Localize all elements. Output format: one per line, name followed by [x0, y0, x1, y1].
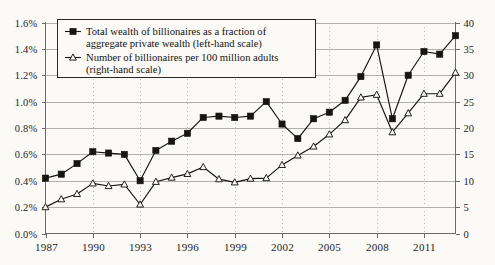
left-axis-tick-label: 0.2% — [15, 202, 38, 213]
right-axis-tick-label: 5 — [464, 202, 469, 213]
data-point-marker — [452, 33, 458, 39]
x-axis-tick-label: 2011 — [413, 241, 436, 253]
data-point-marker — [137, 178, 143, 184]
x-axis-tick-label: 1996 — [176, 241, 199, 253]
data-point-marker — [421, 48, 427, 54]
data-point-marker — [121, 151, 127, 157]
data-point-marker — [405, 72, 411, 78]
right-axis-tick-label: 25 — [464, 97, 475, 108]
data-point-marker — [105, 150, 111, 156]
data-point-marker — [74, 161, 80, 167]
left-axis-tick-label: 0.4% — [15, 176, 38, 187]
data-point-marker — [247, 113, 253, 119]
legend-label-line1: Number of billionaires per 100 million a… — [86, 52, 278, 63]
data-point-marker — [358, 73, 364, 79]
x-axis-tick-label: 1999 — [224, 241, 247, 253]
x-axis-tick-label: 2005 — [318, 241, 341, 253]
legend-label-line1: Total wealth of billionaires as a fracti… — [86, 26, 267, 37]
data-point-marker — [279, 121, 285, 127]
x-axis-tick-label: 1993 — [129, 241, 152, 253]
legend-entry-1: Total wealth of billionaires as a fracti… — [65, 26, 267, 50]
data-point-marker — [42, 175, 48, 181]
data-point-marker — [200, 114, 206, 120]
data-point-marker — [184, 130, 190, 136]
left-axis-tick-label: 1.0% — [15, 97, 38, 108]
right-axis-tick-label: 20 — [464, 123, 475, 134]
data-point-marker — [437, 51, 443, 57]
billionaire-wealth-line-chart: 0.0%0.2%0.4%0.6%0.8%1.0%1.2%1.4%1.6% 051… — [0, 0, 495, 265]
data-point-marker — [310, 116, 316, 122]
data-point-marker — [153, 147, 159, 153]
chart-legend: Total wealth of billionaires as a fracti… — [58, 20, 316, 78]
right-axis-tick-label: 10 — [464, 176, 475, 187]
right-axis-tick-label: 40 — [464, 18, 475, 29]
legend-marker-filled-square-icon — [70, 28, 76, 34]
left-axis-tick-label: 0.0% — [15, 229, 38, 240]
data-point-marker — [295, 135, 301, 141]
data-point-marker — [232, 114, 238, 120]
data-point-marker — [342, 97, 348, 103]
data-point-marker — [169, 138, 175, 144]
left-axis-tick-label: 0.8% — [15, 123, 38, 134]
right-axis-tick-label: 0 — [464, 229, 469, 240]
legend-label-line2: aggregate private wealth (left-hand scal… — [86, 38, 262, 50]
right-axis-tick-label: 15 — [464, 149, 475, 160]
right-axis-tick-label: 35 — [464, 44, 475, 55]
left-axis-tick-label: 1.4% — [15, 44, 38, 55]
chart-container: 0.0%0.2%0.4%0.6%0.8%1.0%1.2%1.4%1.6% 051… — [0, 0, 495, 265]
x-axis-tick-label: 2008 — [366, 241, 389, 253]
legend-label-line2: (right-hand scale) — [86, 64, 161, 76]
data-point-marker — [90, 149, 96, 155]
x-axis-tick-label: 1990 — [82, 241, 105, 253]
x-axis-tick-label: 1987 — [35, 241, 58, 253]
data-point-marker — [374, 42, 380, 48]
x-axis-tick-label: 2002 — [271, 241, 294, 253]
data-point-marker — [263, 99, 269, 105]
data-point-marker — [58, 171, 64, 177]
right-axis-tick-label: 30 — [464, 70, 475, 81]
data-point-marker — [389, 116, 395, 122]
data-point-marker — [326, 109, 332, 115]
left-axis-tick-label: 0.6% — [15, 149, 38, 160]
data-point-marker — [216, 113, 222, 119]
left-axis-tick-label: 1.6% — [15, 18, 38, 29]
left-axis-tick-label: 1.2% — [15, 70, 38, 81]
